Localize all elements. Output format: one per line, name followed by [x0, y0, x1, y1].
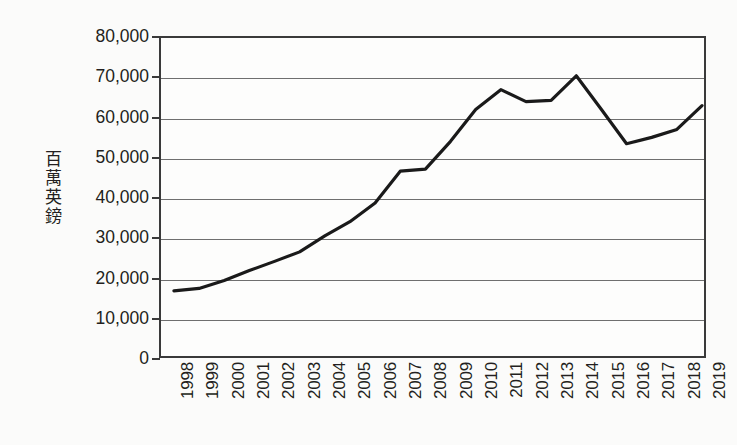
- y-axis-title-char-3: 英: [40, 188, 66, 207]
- series-polyline: [174, 76, 702, 291]
- x-axis-tick-label: 2005: [355, 362, 375, 399]
- y-axis-title: 百 萬 英 鎊: [40, 150, 66, 226]
- y-axis-title-char-1: 百: [40, 150, 66, 169]
- x-axis-tick-label: 2019: [710, 362, 730, 399]
- x-axis-tick-label: 2017: [659, 362, 679, 399]
- x-axis-tick-label: 2016: [634, 362, 654, 399]
- y-axis-tick-label: 70,000: [71, 66, 149, 87]
- x-axis-tick-label: 2004: [330, 362, 350, 399]
- x-axis-tick-label: 2012: [533, 362, 553, 399]
- x-axis-tick-label: 2013: [558, 362, 578, 399]
- x-axis-tick-label: 1999: [203, 362, 223, 399]
- x-axis-tick-label: 2015: [609, 362, 629, 399]
- y-axis-tick-label: 60,000: [71, 106, 149, 127]
- y-axis-tick-label: 30,000: [71, 227, 149, 248]
- y-axis-tick-label: 20,000: [71, 267, 149, 288]
- data-series-line: [161, 38, 704, 356]
- x-axis-tick-label: 2014: [583, 362, 603, 399]
- x-axis-tick-label: 2008: [431, 362, 451, 399]
- x-axis-tick-label: 1998: [178, 362, 198, 399]
- x-axis-tick-label: 2007: [406, 362, 426, 399]
- x-axis-tick-label: 2001: [254, 362, 274, 399]
- line-chart-figure: 百 萬 英 鎊 010,00020,00030,00040,00050,0006…: [0, 0, 737, 445]
- x-axis-tick-label: 2006: [381, 362, 401, 399]
- y-axis-title-char-4: 鎊: [40, 207, 66, 226]
- x-axis-tick-label: 2011: [507, 362, 527, 398]
- y-axis-tick-label: 10,000: [71, 307, 149, 328]
- x-axis-tick-label: 2002: [279, 362, 299, 399]
- x-axis-tick-labels: 1998199920002001200220032004200520062007…: [159, 358, 706, 445]
- x-axis-tick-label: 2018: [685, 362, 705, 399]
- plot-area: [159, 36, 706, 358]
- x-axis-tick-label: 2009: [457, 362, 477, 399]
- y-axis-tick-label: 80,000: [71, 26, 149, 47]
- x-axis-tick-label: 2010: [482, 362, 502, 399]
- y-axis-tick-label: 50,000: [71, 146, 149, 167]
- y-axis-title-char-2: 萬: [40, 169, 66, 188]
- y-axis-tick-label: 0: [71, 348, 149, 369]
- x-axis-tick-label: 2000: [229, 362, 249, 399]
- x-axis-tick-label: 2003: [305, 362, 325, 399]
- y-axis-tick-label: 40,000: [71, 187, 149, 208]
- y-axis-tick-labels: 010,00020,00030,00040,00050,00060,00070,…: [71, 0, 149, 445]
